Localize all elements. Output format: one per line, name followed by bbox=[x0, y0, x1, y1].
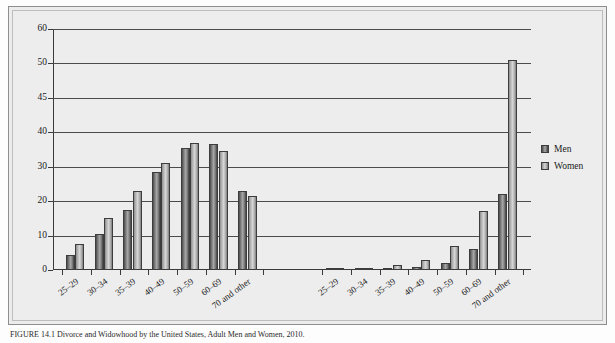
x-tick bbox=[408, 270, 409, 275]
x-tick bbox=[523, 270, 524, 275]
gridline bbox=[53, 132, 531, 133]
x-tick bbox=[148, 270, 149, 275]
x-axis-label: 35–39 bbox=[374, 277, 397, 298]
x-tick bbox=[322, 270, 323, 275]
bar-men bbox=[412, 267, 421, 270]
x-axis-label: 40–49 bbox=[143, 277, 166, 298]
bar-women bbox=[508, 60, 517, 270]
legend-item-men: Men bbox=[541, 142, 583, 156]
chart-plot-area: 010203040455060 25–2930–3435–3940–4950–5… bbox=[53, 29, 531, 270]
bar-men bbox=[123, 210, 132, 270]
x-tick bbox=[466, 270, 467, 275]
y-tick bbox=[48, 98, 53, 99]
x-axis-label: 30–34 bbox=[345, 277, 368, 298]
x-tick bbox=[495, 270, 496, 275]
x-tick bbox=[62, 270, 63, 275]
bar-women bbox=[393, 265, 402, 270]
y-tick bbox=[48, 132, 53, 133]
bar-women bbox=[248, 196, 257, 270]
bar-women bbox=[479, 211, 488, 270]
x-tick bbox=[437, 270, 438, 275]
y-axis-label: 45 bbox=[21, 92, 47, 102]
y-axis-label: 60 bbox=[21, 24, 47, 34]
y-axis-label: 20 bbox=[21, 196, 47, 206]
legend-swatch-men-icon bbox=[541, 145, 549, 153]
y-tick bbox=[48, 236, 53, 237]
bar-women bbox=[104, 218, 113, 270]
x-axis-label: 25–29 bbox=[317, 277, 340, 298]
gridline bbox=[53, 63, 531, 64]
gridline bbox=[53, 98, 531, 99]
y-tick bbox=[48, 270, 53, 271]
y-axis-label: 0 bbox=[21, 265, 47, 275]
bar-men bbox=[469, 249, 478, 270]
bar-men bbox=[66, 255, 75, 270]
bar-women bbox=[161, 163, 170, 270]
x-tick bbox=[351, 270, 352, 275]
bar-women bbox=[450, 246, 459, 270]
bar-women bbox=[219, 151, 228, 270]
y-axis-label: 30 bbox=[21, 161, 47, 171]
bar-women bbox=[421, 260, 430, 270]
x-tick bbox=[120, 270, 121, 275]
y-tick bbox=[48, 201, 53, 202]
legend-swatch-women-icon bbox=[541, 162, 549, 170]
y-tick bbox=[48, 167, 53, 168]
x-tick bbox=[206, 270, 207, 275]
chart-legend: Men Women bbox=[541, 142, 583, 176]
y-axis-label: 50 bbox=[21, 58, 47, 68]
bar-men bbox=[355, 268, 364, 270]
figure-frame: 010203040455060 25–2930–3435–3940–4950–5… bbox=[8, 6, 607, 325]
legend-item-women: Women bbox=[541, 159, 583, 173]
x-axis-label: 50–59 bbox=[431, 277, 454, 298]
bar-women bbox=[75, 244, 84, 270]
x-tick bbox=[263, 270, 264, 275]
x-axis-label: 35–39 bbox=[114, 277, 137, 298]
x-tick bbox=[177, 270, 178, 275]
bar-women bbox=[335, 268, 344, 270]
bar-women bbox=[364, 268, 373, 270]
y-axis-label: 10 bbox=[21, 230, 47, 240]
figure-inner-border: 010203040455060 25–2930–3435–3940–4950–5… bbox=[12, 10, 603, 321]
bar-men bbox=[181, 148, 190, 270]
figure-caption: FIGURE 14.1 Divorce and Widowhood by the… bbox=[10, 330, 605, 341]
x-tick bbox=[235, 270, 236, 275]
legend-label-men: Men bbox=[554, 142, 571, 156]
bar-women bbox=[190, 143, 199, 270]
y-axis-line bbox=[53, 29, 54, 270]
gridline bbox=[53, 29, 531, 30]
bar-men bbox=[209, 144, 218, 270]
bar-men bbox=[95, 234, 104, 270]
bar-men bbox=[441, 263, 450, 270]
x-axis-label: 30–34 bbox=[85, 277, 108, 298]
x-tick bbox=[380, 270, 381, 275]
bar-women bbox=[133, 191, 142, 270]
legend-label-women: Women bbox=[554, 159, 583, 173]
bar-men bbox=[238, 191, 247, 270]
x-axis-label: 40–49 bbox=[403, 277, 426, 298]
bar-men bbox=[498, 194, 507, 270]
bar-men bbox=[383, 268, 392, 270]
bar-men bbox=[152, 172, 161, 270]
x-axis-label: 50–59 bbox=[171, 277, 194, 298]
gridline bbox=[53, 167, 531, 168]
y-tick bbox=[48, 63, 53, 64]
y-tick bbox=[48, 29, 53, 30]
gridline bbox=[53, 201, 531, 202]
y-axis-label: 40 bbox=[21, 127, 47, 137]
bar-men bbox=[326, 268, 335, 270]
x-tick bbox=[91, 270, 92, 275]
x-axis-label: 25–29 bbox=[57, 277, 80, 298]
